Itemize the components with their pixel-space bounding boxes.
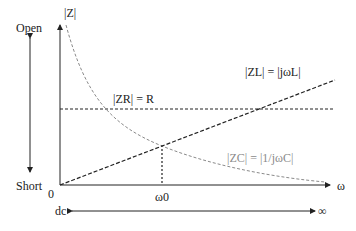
inductor-label: |ZL| = |jωL|: [245, 66, 301, 78]
short-label: Short: [16, 180, 42, 192]
inductor-curve: [60, 80, 335, 185]
resonance-label: ω0: [155, 191, 169, 203]
infinity-label: ∞: [318, 205, 327, 217]
y-axis-label: |Z|: [64, 7, 76, 19]
dc-label: dc: [55, 205, 66, 217]
capacitor-label: |ZC| = |1/jωC|: [227, 152, 293, 164]
origin-label: 0: [48, 188, 54, 200]
resistor-label: |ZR| = R: [113, 93, 154, 105]
open-label: Open: [16, 22, 42, 34]
x-axis-label: ω: [337, 180, 345, 192]
